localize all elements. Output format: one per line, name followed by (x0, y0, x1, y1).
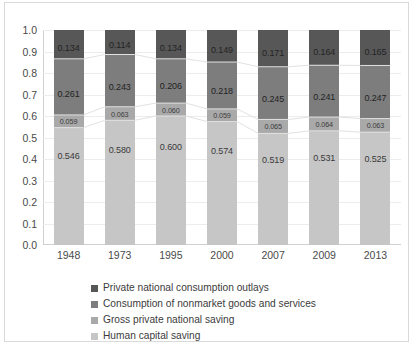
x-axis-tick-label: 1948 (54, 249, 84, 261)
x-axis-tick-label: 2009 (309, 249, 339, 261)
legend-item-label: Consumption of nonmarket goods and servi… (103, 298, 316, 310)
y-axis-tick-label: 1.0 (22, 25, 37, 35)
legend-item-label: Human capital saving (103, 330, 200, 342)
y-axis-tick-label: 0.2 (22, 197, 37, 207)
bar-segment[interactable]: 0.063 (360, 119, 390, 133)
bar-segment-value-label: 0.218 (211, 87, 233, 96)
legend-item[interactable]: Human capital saving (91, 328, 371, 344)
bar-column[interactable]: 0.1650.2470.0630.525 (360, 30, 390, 245)
legend-item-label: Private national consumption outlays (103, 282, 269, 294)
bar-segment[interactable]: 0.134 (156, 30, 186, 59)
bar-segment-value-label: 0.247 (364, 94, 386, 103)
legend-color-swatch (91, 285, 98, 292)
bar-segment-value-label: 0.134 (160, 43, 182, 52)
bar-segment[interactable]: 0.580 (105, 120, 135, 245)
chart-legend: Private national consumption outlaysCons… (91, 280, 371, 344)
bar-column[interactable]: 0.1490.2180.0590.574 (207, 30, 237, 245)
legend-item[interactable]: Consumption of nonmarket goods and servi… (91, 296, 371, 312)
bar-segment[interactable]: 0.059 (207, 109, 237, 122)
bar-segment-value-label: 0.531 (313, 154, 335, 163)
bar-segment-value-label: 0.063 (111, 109, 129, 118)
x-axis-tick-label: 2000 (207, 249, 237, 261)
y-axis-tick-label: 0.3 (22, 176, 37, 186)
bar-segment-value-label: 0.059 (213, 111, 231, 120)
bar-segment[interactable]: 0.206 (156, 59, 186, 103)
bar-column[interactable]: 0.1640.2410.0640.531 (309, 30, 339, 245)
bar-segment[interactable]: 0.519 (258, 133, 288, 245)
bar-segment[interactable]: 0.243 (105, 55, 135, 107)
bar-segment-value-label: 0.206 (160, 82, 182, 91)
x-axis-tick-label: 1995 (156, 249, 186, 261)
bar-segment[interactable]: 0.245 (258, 67, 288, 120)
bar-segment-value-label: 0.065 (264, 122, 282, 131)
legend-item-label: Gross private national saving (103, 314, 234, 326)
legend-color-swatch (91, 333, 98, 340)
bar-segment[interactable]: 0.064 (309, 117, 339, 131)
bar-segment-value-label: 0.149 (211, 45, 233, 54)
bar-segment[interactable]: 0.059 (54, 115, 84, 128)
bar-segment-value-label: 0.171 (262, 48, 284, 57)
legend-color-swatch (91, 317, 98, 324)
legend-item[interactable]: Private national consumption outlays (91, 280, 371, 296)
bar-segment-value-label: 0.574 (211, 147, 233, 156)
bar-segment[interactable]: 0.171 (258, 30, 288, 67)
bar-segment[interactable]: 0.247 (360, 66, 390, 119)
bar-segment-value-label: 0.546 (58, 151, 80, 160)
x-axis: 1948197319952000200720092013 (43, 249, 401, 267)
bar-segment[interactable]: 0.600 (156, 116, 186, 245)
bar-segment[interactable]: 0.114 (105, 30, 135, 55)
bar-segment-value-label: 0.245 (262, 95, 284, 104)
y-axis-tick-label: 0.7 (22, 90, 37, 100)
bar-segment[interactable]: 0.149 (207, 30, 237, 62)
legend-item[interactable]: Gross private national saving (91, 312, 371, 328)
bar-group: 0.1340.2610.0590.5460.1140.2430.0630.580… (43, 30, 401, 245)
bar-segment[interactable]: 0.546 (54, 128, 84, 245)
bar-column[interactable]: 0.1340.2610.0590.546 (54, 30, 84, 245)
bar-segment-value-label: 0.600 (160, 142, 182, 151)
bar-segment-value-label: 0.580 (109, 146, 131, 155)
bar-segment-value-label: 0.134 (58, 43, 80, 52)
y-axis-tick-label: 0.8 (22, 68, 37, 78)
y-axis-tick-label: 0.1 (22, 219, 37, 229)
x-axis-tick-label: 2013 (360, 249, 390, 261)
bar-segment[interactable]: 0.574 (207, 122, 237, 245)
bar-segment[interactable]: 0.531 (309, 131, 339, 245)
bar-segment[interactable]: 0.241 (309, 65, 339, 117)
bar-segment-value-label: 0.060 (162, 105, 180, 114)
bar-segment-value-label: 0.525 (364, 155, 386, 164)
legend-color-swatch (91, 301, 98, 308)
bar-segment[interactable]: 0.134 (54, 30, 84, 59)
bar-segment-value-label: 0.261 (58, 89, 80, 98)
bar-segment-value-label: 0.064 (316, 119, 334, 128)
plot-area: 0.1340.2610.0590.5460.1140.2430.0630.580… (43, 30, 401, 245)
bar-segment[interactable]: 0.063 (105, 107, 135, 121)
bar-segment[interactable]: 0.060 (156, 103, 186, 116)
y-axis-tick-label: 0.4 (22, 154, 37, 164)
chart-figure: 0.00.10.20.30.40.50.60.70.80.91.0 0.1340… (4, 2, 409, 342)
bar-segment-value-label: 0.114 (109, 41, 130, 50)
bar-segment[interactable]: 0.164 (309, 30, 339, 65)
x-axis-tick-label: 1973 (105, 249, 135, 261)
figure-caption (6, 346, 406, 356)
bar-segment-value-label: 0.165 (364, 48, 386, 57)
bar-segment-value-label: 0.063 (367, 121, 385, 130)
bar-segment[interactable]: 0.165 (360, 30, 390, 65)
bar-segment[interactable]: 0.261 (54, 59, 84, 115)
bar-segment[interactable]: 0.218 (207, 62, 237, 109)
y-axis: 0.00.10.20.30.40.50.60.70.80.91.0 (5, 30, 41, 245)
bar-segment-value-label: 0.164 (313, 47, 335, 56)
x-axis-tick-label: 2007 (258, 249, 288, 261)
bar-segment[interactable]: 0.065 (258, 119, 288, 133)
bar-segment[interactable]: 0.525 (360, 132, 390, 245)
bar-column[interactable]: 0.1340.2060.0600.600 (156, 30, 186, 245)
y-axis-tick-label: 0.5 (22, 133, 37, 143)
bar-column[interactable]: 0.1140.2430.0630.580 (105, 30, 135, 245)
bar-segment-value-label: 0.519 (262, 156, 284, 165)
y-axis-tick-label: 0.6 (22, 111, 37, 121)
bar-segment-value-label: 0.241 (313, 93, 335, 102)
bar-segment-value-label: 0.243 (109, 82, 131, 91)
y-axis-tick-label: 0.9 (22, 47, 37, 57)
bar-segment-value-label: 0.059 (60, 117, 78, 126)
bar-column[interactable]: 0.1710.2450.0650.519 (258, 30, 288, 245)
y-axis-tick-label: 0.0 (22, 240, 37, 250)
